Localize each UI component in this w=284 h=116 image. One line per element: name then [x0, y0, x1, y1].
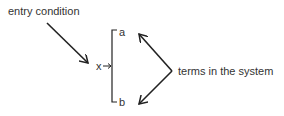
term-b-label: b	[119, 96, 125, 108]
entry-condition-label: entry condition	[8, 5, 80, 17]
bracket	[112, 30, 117, 102]
entry-arrow	[47, 23, 88, 63]
terms-arrow-down	[139, 71, 172, 104]
terms-arrow-up	[139, 34, 172, 71]
terms-in-system-label: terms in the system	[178, 65, 273, 77]
term-a-label: a	[119, 26, 125, 38]
diagram-lines	[0, 0, 284, 116]
variable-x-label: x	[96, 60, 102, 72]
